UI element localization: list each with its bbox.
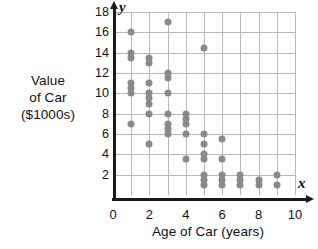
y-axis-title-line-2: of Car bbox=[2, 89, 94, 106]
gridline-vertical bbox=[259, 12, 260, 195]
x-tick-label: 4 bbox=[174, 208, 198, 221]
y-tick-label: 6 bbox=[87, 128, 109, 141]
x-axis-title: Age of Car (years) bbox=[108, 224, 308, 239]
gridline-vertical bbox=[131, 12, 132, 195]
data-point bbox=[164, 75, 171, 82]
x-tick-labels: 0246810 bbox=[113, 208, 313, 226]
x-axis-line bbox=[112, 198, 308, 201]
gridline-vertical bbox=[277, 12, 278, 195]
y-tick-label: 12 bbox=[87, 67, 109, 80]
grid bbox=[113, 12, 295, 195]
data-point bbox=[182, 131, 189, 138]
data-point bbox=[128, 29, 135, 36]
gridline-horizontal bbox=[113, 53, 295, 54]
x-tick-label: 2 bbox=[137, 208, 161, 221]
y-tick-label: 14 bbox=[87, 47, 109, 60]
data-point bbox=[201, 131, 208, 138]
x-tick-label: 10 bbox=[283, 208, 307, 221]
x-tick-label: 6 bbox=[210, 208, 234, 221]
data-point bbox=[201, 181, 208, 188]
data-point bbox=[128, 54, 135, 61]
y-axis-title-line-3: ($1000s) bbox=[2, 106, 94, 123]
y-tick-label: 8 bbox=[87, 108, 109, 121]
data-point bbox=[146, 141, 153, 148]
gridline-vertical bbox=[186, 12, 187, 195]
data-point bbox=[146, 110, 153, 117]
data-point bbox=[219, 181, 226, 188]
data-point bbox=[201, 141, 208, 148]
data-point bbox=[128, 90, 135, 97]
gridline-vertical bbox=[240, 12, 241, 195]
y-tick-label: 16 bbox=[87, 26, 109, 39]
y-tick-label: 10 bbox=[87, 87, 109, 100]
data-point bbox=[273, 181, 280, 188]
data-point bbox=[201, 44, 208, 51]
y-axis-title: Value of Car ($1000s) bbox=[2, 72, 94, 123]
gridline-vertical bbox=[295, 12, 296, 195]
x-axis-variable-label: x bbox=[298, 175, 306, 192]
data-point bbox=[219, 156, 226, 163]
gridline-horizontal bbox=[113, 93, 295, 94]
y-tick-label: 2 bbox=[87, 169, 109, 182]
data-point bbox=[164, 90, 171, 97]
data-point bbox=[164, 19, 171, 26]
y-tick-labels: 24681012141618 bbox=[87, 12, 109, 195]
data-point bbox=[219, 136, 226, 143]
data-point bbox=[273, 171, 280, 178]
y-axis-line bbox=[113, 8, 116, 200]
gridline-vertical bbox=[204, 12, 205, 195]
x-axis-arrow-icon bbox=[306, 195, 314, 203]
data-point bbox=[146, 100, 153, 107]
y-axis-variable-label: y bbox=[119, 0, 126, 16]
gridline-horizontal bbox=[113, 32, 295, 33]
scatter-plot-figure: Value of Car ($1000s) Age of Car (years)… bbox=[0, 0, 318, 249]
gridline-horizontal bbox=[113, 12, 295, 13]
data-point bbox=[182, 120, 189, 127]
y-tick-label: 18 bbox=[87, 6, 109, 19]
data-point bbox=[146, 59, 153, 66]
y-tick-label: 4 bbox=[87, 148, 109, 161]
data-point bbox=[164, 131, 171, 138]
y-axis-arrow-icon bbox=[110, 1, 118, 9]
data-point bbox=[201, 156, 208, 163]
data-point bbox=[182, 156, 189, 163]
gridline-vertical bbox=[222, 12, 223, 195]
data-point bbox=[146, 80, 153, 87]
x-tick-label: 8 bbox=[247, 208, 271, 221]
data-point bbox=[164, 110, 171, 117]
gridline-horizontal bbox=[113, 114, 295, 115]
data-point bbox=[237, 181, 244, 188]
data-point bbox=[255, 181, 262, 188]
plot-area: y x 24681012141618 0246810 bbox=[113, 12, 295, 195]
data-point bbox=[128, 120, 135, 127]
gridline-horizontal bbox=[113, 73, 295, 74]
gridline-vertical bbox=[168, 12, 169, 195]
y-axis-title-line-1: Value bbox=[2, 72, 94, 89]
x-tick-label: 0 bbox=[101, 208, 125, 221]
